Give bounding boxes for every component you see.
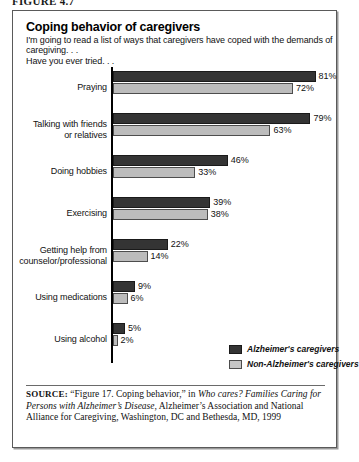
bar-value-label: 79%	[313, 113, 331, 124]
bar-value-label: 39%	[213, 197, 231, 208]
bar-series-a	[113, 155, 228, 166]
legend-label-series-a: Alzheimer's caregivers	[247, 343, 339, 356]
bar-series-b	[113, 83, 293, 94]
bar-chart-plot-area: Praying81%72%Talking with friendsor rela…	[13, 67, 336, 367]
figure-caption: FIGURE 4.7	[12, 0, 74, 5]
bar-series-a	[113, 197, 211, 208]
source-note: SOURCE: “Figure 17. Coping behavior,” in…	[26, 389, 326, 424]
bar-series-a	[113, 281, 136, 292]
bar-value-label: 14%	[151, 251, 169, 262]
category-label: Praying	[0, 82, 107, 93]
chart-intro-line-2: caregiving. . .	[26, 45, 78, 55]
category-label: Talking with friendsor relatives	[0, 119, 107, 140]
bar-series-b	[113, 293, 128, 304]
bar-series-a	[113, 239, 168, 250]
bar-group: Doing hobbies46%33%	[13, 155, 336, 197]
bar-series-a	[113, 71, 316, 82]
bar-group: Exercising39%38%	[13, 197, 336, 239]
source-label: SOURCE:	[26, 389, 68, 399]
bar-series-b	[113, 125, 271, 136]
bar-series-a	[113, 113, 311, 124]
chart-intro-line-3: Have you ever tried. . .	[26, 56, 114, 66]
bar-value-label: 81%	[319, 71, 337, 82]
bar-group: Talking with friendsor relatives79%63%	[13, 113, 336, 155]
chart-intro-line-1: I'm going to read a list of ways that ca…	[26, 35, 333, 45]
bar-value-label: 22%	[171, 239, 189, 250]
category-label: Exercising	[0, 208, 107, 219]
bar-value-label: 63%	[273, 125, 291, 136]
bar-series-b	[113, 335, 118, 346]
chart-title: Coping behavior of caregivers	[26, 20, 200, 34]
bar-group: Praying81%72%	[13, 71, 336, 113]
bar-value-label: 5%	[128, 323, 141, 334]
bar-series-b	[113, 167, 196, 178]
bar-group: Getting help fromcounselor/professional2…	[13, 239, 336, 281]
legend-swatch-icon-series-a	[229, 345, 242, 354]
legend-label-series-b: Non-Alzheimer's caregivers	[247, 358, 359, 371]
bar-value-label: 46%	[231, 155, 249, 166]
bar-value-label: 72%	[296, 83, 314, 94]
source-text-1: “Figure 17. Coping behavior,” in	[68, 389, 198, 399]
bar-value-label: 2%	[121, 335, 134, 346]
bar-value-label: 6%	[131, 293, 144, 304]
bar-series-a	[113, 323, 126, 334]
bar-value-label: 9%	[138, 281, 151, 292]
bar-value-label: 38%	[211, 209, 229, 220]
category-label: Getting help fromcounselor/professional	[0, 245, 107, 266]
category-label: Using alcohol	[0, 334, 107, 345]
bar-series-b	[113, 209, 208, 220]
category-label: Doing hobbies	[0, 166, 107, 177]
figure-box: Coping behavior of caregivers I'm going …	[12, 10, 337, 448]
bar-series-b	[113, 251, 148, 262]
bar-value-label: 33%	[198, 167, 216, 178]
legend-swatch-icon-series-b	[229, 360, 242, 369]
bar-group: Using medications9%6%	[13, 281, 336, 323]
source-divider	[26, 385, 325, 386]
category-label: Using medications	[0, 292, 107, 303]
